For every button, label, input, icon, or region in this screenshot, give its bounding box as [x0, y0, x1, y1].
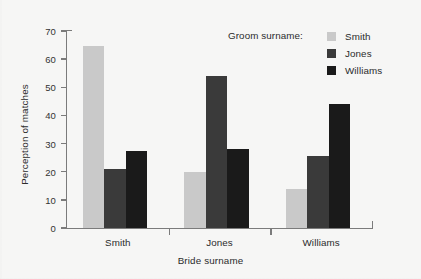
y-axis-tick-label: 10 [32, 194, 56, 205]
legend-swatch-icon [327, 32, 336, 41]
x-axis-group-label: Smith [105, 237, 131, 248]
y-axis-title: Perception of matches [19, 60, 30, 210]
x-axis-group-label: Williams [303, 237, 340, 248]
x-axis-tick [169, 228, 170, 235]
bar [227, 149, 249, 228]
legend-entry-label: Williams [345, 65, 382, 76]
y-axis-tick [61, 115, 67, 116]
x-axis-tick [270, 228, 271, 235]
x-axis-line [66, 228, 373, 229]
legend-swatch-icon [327, 49, 336, 58]
bar [307, 156, 329, 228]
y-axis-tick-label: 20 [32, 166, 56, 177]
y-axis-tick [61, 143, 67, 144]
x-axis-group-label: Jones [206, 237, 233, 248]
bar [329, 104, 351, 228]
y-axis-tick-label: 40 [32, 110, 56, 121]
bar [83, 46, 105, 228]
bar [286, 189, 308, 228]
y-axis-tick [61, 87, 67, 88]
legend-title: Groom surname: [228, 30, 303, 41]
y-axis-tick-label: 50 [32, 82, 56, 93]
y-axis-tick-label: 60 [32, 54, 56, 65]
y-axis-tick-label: 70 [32, 26, 56, 37]
y-axis-tick [61, 30, 67, 31]
legend-swatch-icon [327, 66, 336, 75]
y-axis-tick [61, 58, 67, 59]
bar [184, 172, 206, 228]
x-axis-title: Bride surname [0, 255, 421, 266]
bar [206, 76, 228, 228]
y-axis-tick [61, 227, 67, 228]
bar [126, 151, 148, 228]
y-axis-tick [61, 199, 67, 200]
y-axis-tick [61, 171, 67, 172]
legend-entry: Jones [327, 45, 372, 62]
legend-entry-label: Smith [345, 31, 371, 42]
bar-chart-figure: 010203040506070 Perception of matches Sm… [0, 0, 421, 279]
legend-entry: Smith [327, 28, 371, 45]
legend-entry: Williams [327, 62, 382, 79]
bar [104, 169, 126, 228]
y-axis-tick-label: 0 [32, 223, 56, 234]
legend-entry-label: Jones [345, 48, 372, 59]
y-axis-tick-label: 30 [32, 138, 56, 149]
